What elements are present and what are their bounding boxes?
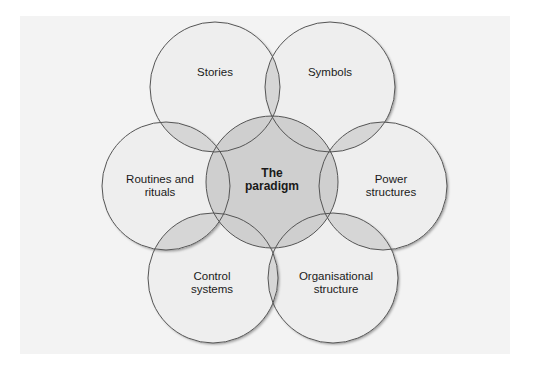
label-routines-and-rituals-line2: rituals	[126, 186, 194, 199]
center-label-the-paradigm: The paradigm	[245, 167, 299, 193]
label-routines-and-rituals: Routines and rituals	[126, 173, 194, 199]
label-control-systems-line1: Control	[191, 270, 233, 283]
diagram-page: The paradigm Stories Symbols Power struc…	[0, 0, 545, 370]
label-symbols: Symbols	[308, 66, 352, 79]
center-label-line2: paradigm	[245, 180, 299, 193]
label-organisational-structure: Organisational structure	[299, 270, 373, 296]
label-power-structures-line2: structures	[366, 186, 417, 199]
label-power-structures: Power structures	[366, 173, 417, 199]
label-organisational-structure-line1: Organisational	[299, 270, 373, 283]
label-control-systems-line2: systems	[191, 283, 233, 296]
label-power-structures-line1: Power	[366, 173, 417, 186]
label-symbols-line1: Symbols	[308, 66, 352, 79]
label-stories-line1: Stories	[197, 66, 233, 79]
label-control-systems: Control systems	[191, 270, 233, 296]
label-routines-and-rituals-line1: Routines and	[126, 173, 194, 186]
label-stories: Stories	[197, 66, 233, 79]
label-organisational-structure-line2: structure	[299, 283, 373, 296]
